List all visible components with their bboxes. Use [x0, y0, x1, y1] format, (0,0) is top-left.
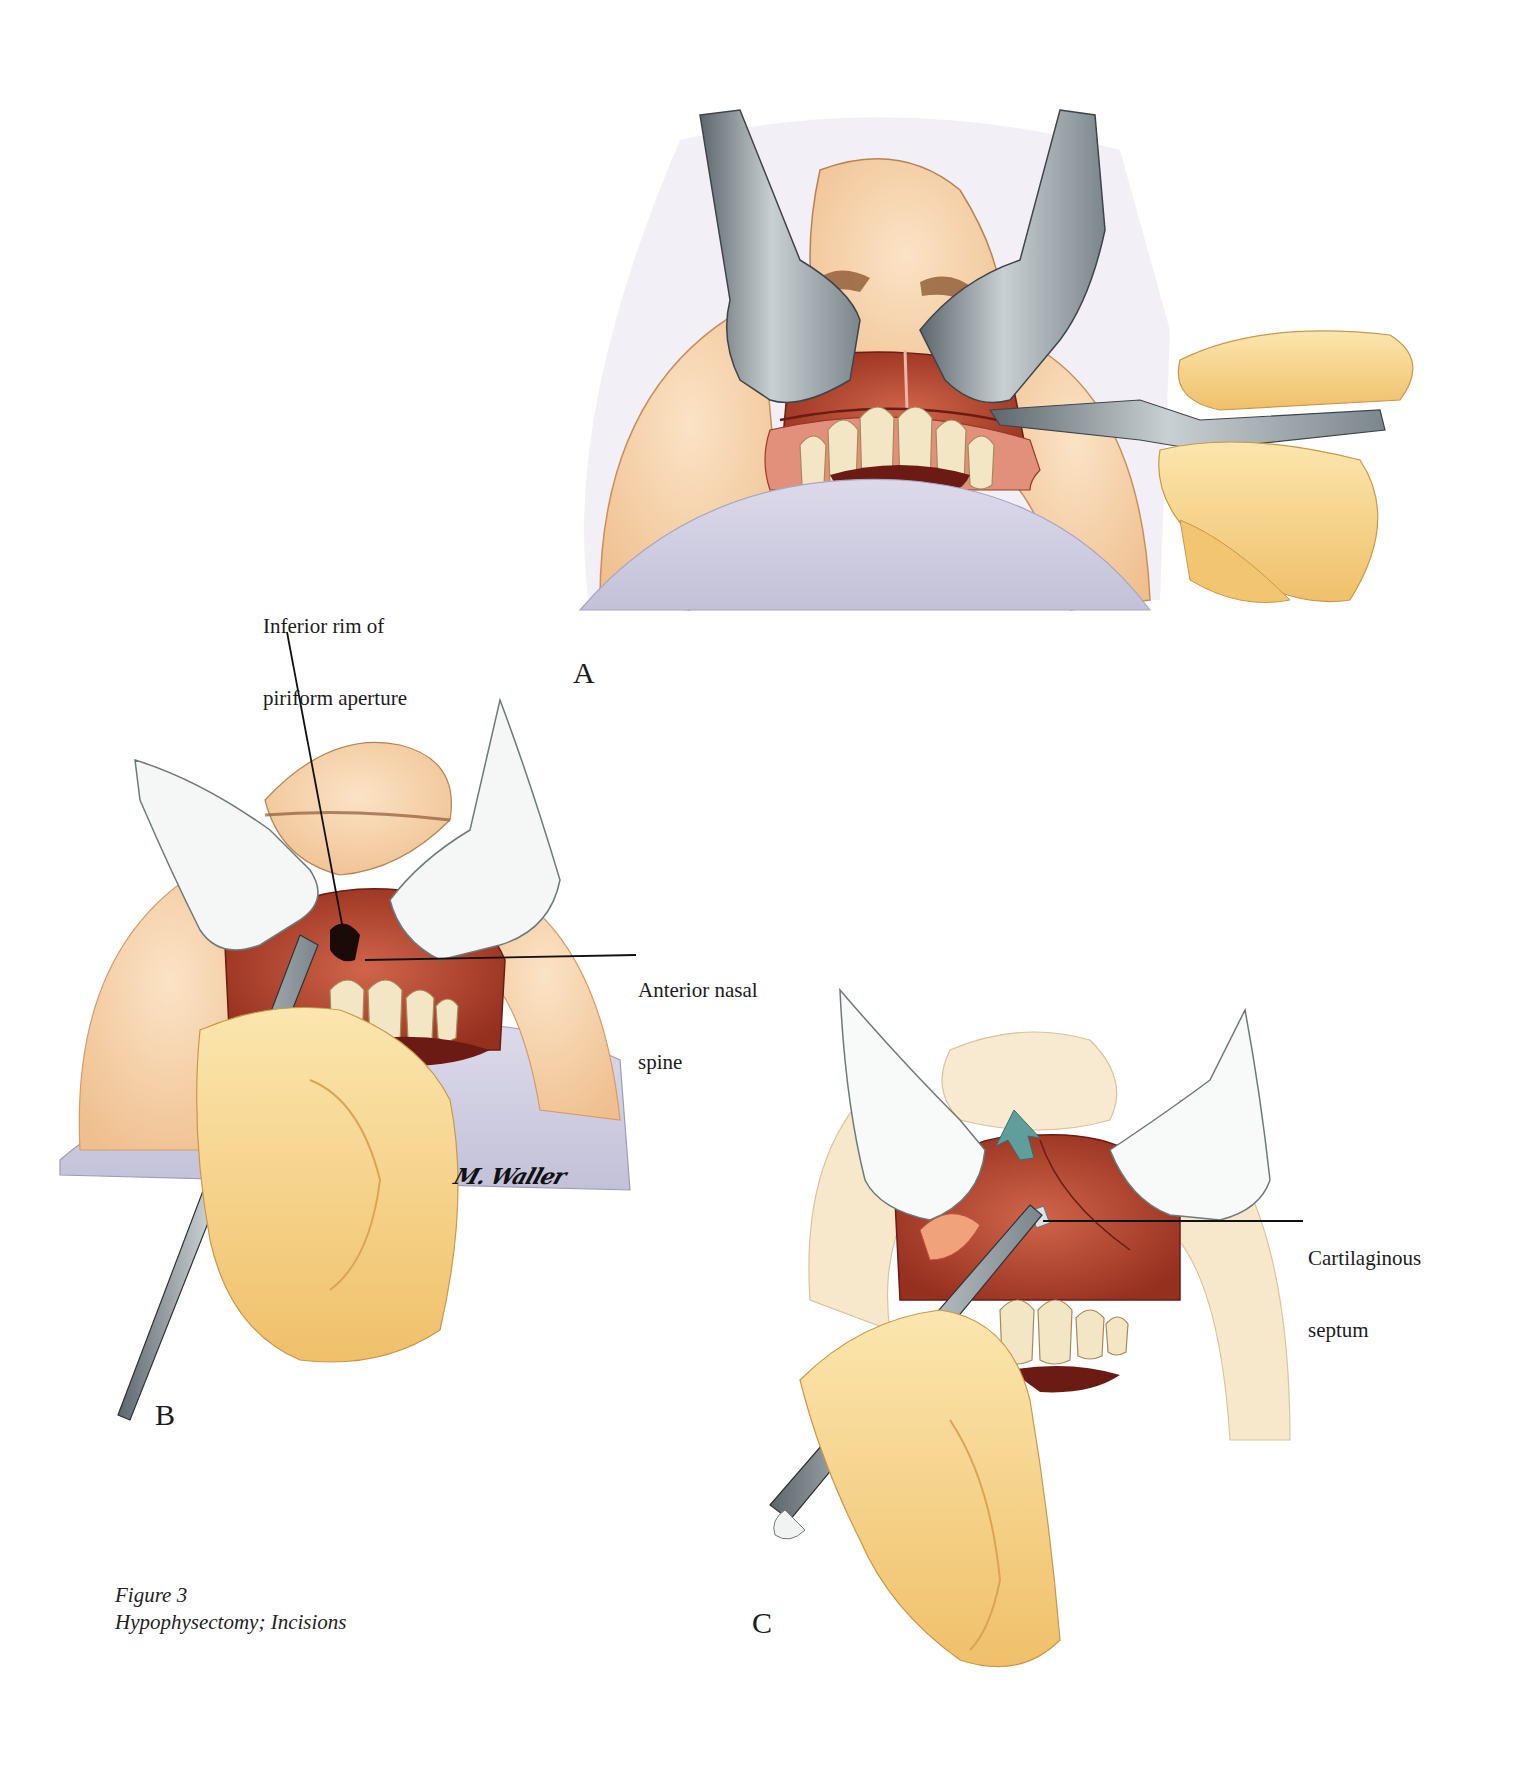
annotation-line: spine [638, 1050, 758, 1074]
figure-title: Hypophysectomy; Incisions [115, 1609, 347, 1636]
annotation-line: Cartilaginous [1308, 1246, 1421, 1270]
panel-letter-b: B [155, 1398, 175, 1432]
annotation-line: septum [1308, 1318, 1421, 1342]
panel-a-illustration [580, 110, 1413, 610]
figure-number: Figure 3 [115, 1582, 347, 1609]
annotation-anterior-nasal-spine: Anterior nasal spine [638, 930, 758, 1098]
panel-letter-a: A [573, 656, 595, 690]
annotation-line: Anterior nasal [638, 978, 758, 1002]
annotation-cartilaginous-septum: Cartilaginous septum [1308, 1198, 1421, 1366]
panel-letter-c: C [752, 1606, 772, 1640]
figure-caption: Figure 3 Hypophysectomy; Incisions [115, 1582, 347, 1636]
artist-signature: M. Waller [451, 1163, 569, 1189]
panel-c-illustration [770, 990, 1290, 1667]
annotation-line: Inferior rim of [263, 614, 407, 638]
figure-illustration [0, 0, 1525, 1778]
annotation-line: piriform aperture [263, 686, 407, 710]
annotation-inferior-rim: Inferior rim of piriform aperture [263, 566, 407, 734]
panel-b-illustration [60, 700, 630, 1420]
